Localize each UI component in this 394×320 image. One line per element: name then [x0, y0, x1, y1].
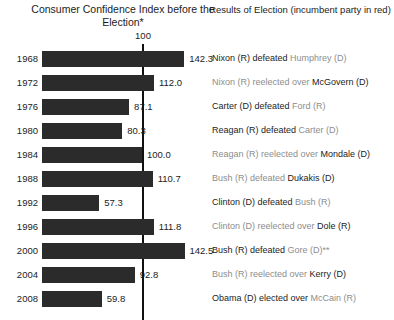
bar — [42, 291, 102, 307]
chart-row: 1968142.3Nixon (R) defeated Humphrey (D) — [0, 48, 394, 72]
election-result: Nixon (R) defeated Humphrey (D) — [212, 53, 347, 63]
bar-value-label: 112.0 — [159, 77, 182, 88]
row-year-label: 2008 — [10, 293, 38, 304]
bar — [42, 123, 122, 139]
challenger-party-text: Reagan (R) defeated — [212, 125, 299, 135]
election-result: Bush (R) defeated Dukakis (D) — [212, 173, 335, 183]
election-result: Clinton (D) reelected over Dole (R) — [212, 221, 351, 231]
row-year-label: 2000 — [10, 245, 38, 256]
bar — [42, 243, 185, 259]
bar — [42, 171, 153, 187]
row-year-label: 2004 — [10, 269, 38, 280]
challenger-party-text: McGovern (D) — [312, 77, 369, 87]
bar-value-label: 92.8 — [140, 269, 159, 280]
bar — [42, 195, 99, 211]
row-year-label: 1976 — [10, 101, 38, 112]
incumbent-party-text: Bush (R) — [295, 197, 331, 207]
bar-value-label: 142.5 — [190, 245, 214, 256]
chart-rows: 1968142.3Nixon (R) defeated Humphrey (D)… — [0, 0, 394, 320]
chart-row: 1996111.8Clinton (D) reelected over Dole… — [0, 216, 394, 240]
bar-value-label: 57.3 — [104, 197, 123, 208]
bar-value-label: 80.3 — [127, 125, 146, 136]
challenger-party-text: Dole (R) — [317, 221, 351, 231]
row-year-label: 1992 — [10, 197, 38, 208]
election-result: Bush (R) defeated Gore (D)** — [212, 245, 330, 255]
bar — [42, 75, 154, 91]
row-year-label: 1968 — [10, 53, 38, 64]
chart-row: 2000142.5Bush (R) defeated Gore (D)** — [0, 240, 394, 264]
challenger-party-text: Mondale (D) — [321, 149, 371, 159]
incumbent-party-text: Ford (R) — [292, 101, 326, 111]
election-result: Carter (D) defeated Ford (R) — [212, 101, 326, 111]
election-result: Nixon (R) reelected over McGovern (D) — [212, 77, 369, 87]
incumbent-party-text: Carter (D) — [299, 125, 339, 135]
bar-value-label: 100.0 — [147, 149, 171, 160]
election-result: Clinton (D) defeated Bush (R) — [212, 197, 331, 207]
chart-row: 199257.3Clinton (D) defeated Bush (R) — [0, 192, 394, 216]
chart-row: 198080.3Reagan (R) defeated Carter (D) — [0, 120, 394, 144]
bar-value-label: 110.7 — [158, 173, 181, 184]
chart-row: 1972112.0Nixon (R) reelected over McGove… — [0, 72, 394, 96]
incumbent-party-text: Bush (R) reelected over — [212, 269, 310, 279]
incumbent-party-text: Clinton (D) reelected over — [212, 221, 317, 231]
chart-row: 200859.8Obama (D) elected over McCain (R… — [0, 288, 394, 312]
challenger-party-text: Kerry (D) — [310, 269, 347, 279]
incumbent-party-text: Reagan (R) reelected over — [212, 149, 321, 159]
chart-row: 1988110.7Bush (R) defeated Dukakis (D) — [0, 168, 394, 192]
challenger-party-text: Dukakis (D) — [288, 173, 335, 183]
chart-row: 1984100.0Reagan (R) reelected over Monda… — [0, 144, 394, 168]
bar — [42, 219, 154, 235]
row-year-label: 1980 — [10, 125, 38, 136]
election-result: Reagan (R) reelected over Mondale (D) — [212, 149, 370, 159]
bar-value-label: 59.8 — [107, 293, 126, 304]
challenger-party-text: Obama (D) elected over — [212, 293, 311, 303]
election-result: Obama (D) elected over McCain (R) — [212, 293, 356, 303]
challenger-party-text: Carter (D) defeated — [212, 101, 292, 111]
bar — [42, 147, 142, 163]
row-year-label: 1996 — [10, 221, 38, 232]
bar-value-label: 142.3 — [189, 53, 213, 64]
challenger-party-text: Nixon (R) defeated — [212, 53, 290, 63]
chart-row: 200492.8Bush (R) reelected over Kerry (D… — [0, 264, 394, 288]
bar — [42, 267, 135, 283]
row-year-label: 1972 — [10, 77, 38, 88]
incumbent-party-text: Bush (R) defeated — [212, 173, 288, 183]
bar-value-label: 87.1 — [134, 101, 153, 112]
bar-value-label: 111.8 — [159, 221, 181, 232]
challenger-party-text: Bush (R) defeated — [212, 245, 288, 255]
challenger-party-text: Clinton (D) defeated — [212, 197, 295, 207]
row-year-label: 1988 — [10, 173, 38, 184]
election-result: Bush (R) reelected over Kerry (D) — [212, 269, 346, 279]
incumbent-party-text: Gore (D)** — [288, 245, 330, 255]
incumbent-party-text: Humphrey (D) — [290, 53, 347, 63]
chart-row: 197687.1Carter (D) defeated Ford (R) — [0, 96, 394, 120]
row-year-label: 1984 — [10, 149, 38, 160]
incumbent-party-text: Nixon (R) reelected over — [212, 77, 312, 87]
election-result: Reagan (R) defeated Carter (D) — [212, 125, 339, 135]
incumbent-party-text: McCain (R) — [311, 293, 357, 303]
bar — [42, 51, 184, 67]
bar — [42, 99, 129, 115]
